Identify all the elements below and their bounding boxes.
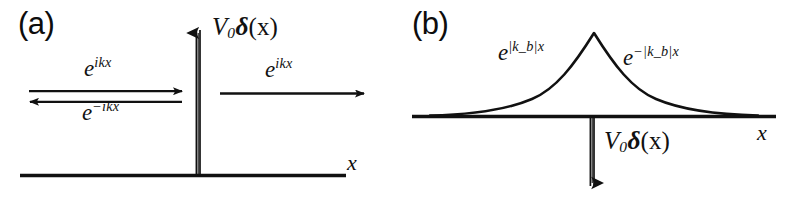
panel-b-left-exponent: |k_b|x bbox=[508, 38, 544, 54]
panel-a-potential-subscript: 0 bbox=[227, 24, 235, 41]
panel-a-transmitted-exponent: ikx bbox=[275, 55, 292, 71]
panel-b-delta-spike bbox=[590, 116, 594, 186]
panel-b-graphics bbox=[412, 33, 776, 186]
panel-b-bound-state-left-label: e|k_b|x bbox=[498, 41, 544, 64]
panel-a-transmitted-label: eikx bbox=[265, 58, 292, 81]
panel-b-right-base: e bbox=[623, 45, 633, 70]
panel-a-incident-base: e bbox=[84, 56, 94, 81]
panel-b-potential-label: V0δ(x) bbox=[604, 128, 670, 154]
panel-a-potential-V: V bbox=[212, 13, 227, 40]
panel-a-letter: (a) bbox=[18, 8, 54, 39]
panel-a-potential-argument: (x) bbox=[249, 13, 278, 40]
figure-canvas bbox=[0, 0, 800, 202]
panel-b-bound-state-curve bbox=[430, 33, 758, 116]
panel-a-delta-spike bbox=[196, 30, 200, 176]
panel-a-potential-delta: δ bbox=[235, 12, 249, 41]
panel-a-incident-label: eikx bbox=[84, 57, 111, 80]
panel-a-graphics bbox=[20, 30, 364, 176]
panel-a-axis-label: x bbox=[347, 152, 357, 174]
panel-b-bound-state-right-label: e−|k_b|x bbox=[623, 46, 679, 69]
panel-a-reflected-label: e−ikx bbox=[82, 101, 119, 124]
panel-b-potential-V: V bbox=[604, 127, 619, 154]
panel-b-letter: (b) bbox=[412, 8, 448, 39]
delta-potential-figure: (a) V0δ(x) eikx e−ikx eikx x (b) e|k_b|x… bbox=[0, 0, 800, 202]
panel-b-right-exponent: −|k_b|x bbox=[633, 43, 679, 59]
panel-a-incident-exponent: ikx bbox=[94, 54, 111, 70]
panel-b-potential-delta: δ bbox=[627, 126, 641, 155]
panel-b-left-base: e bbox=[498, 40, 508, 65]
panel-a-reflected-base: e bbox=[82, 100, 92, 125]
panel-a-potential-label: V0δ(x) bbox=[212, 14, 278, 40]
panel-b-axis-label: x bbox=[757, 122, 767, 144]
panel-a-transmitted-base: e bbox=[265, 57, 275, 82]
panel-b-potential-argument: (x) bbox=[641, 127, 670, 154]
panel-b-potential-subscript: 0 bbox=[619, 138, 627, 155]
panel-a-reflected-exponent: −ikx bbox=[92, 98, 119, 114]
